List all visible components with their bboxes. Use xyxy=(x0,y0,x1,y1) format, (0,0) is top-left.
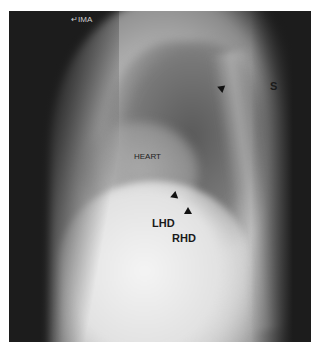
arrowhead-rhd-icon xyxy=(184,207,192,214)
posterior-air xyxy=(251,11,311,342)
orientation-marker: ↵ΙΜΑ xyxy=(71,15,92,24)
label-lhd: LHD xyxy=(152,217,175,229)
label-s: S xyxy=(270,80,277,92)
label-heart: HEART xyxy=(134,152,161,161)
label-rhd: RHD xyxy=(172,232,196,244)
anterior-air xyxy=(9,11,119,342)
xray-image xyxy=(9,11,311,342)
